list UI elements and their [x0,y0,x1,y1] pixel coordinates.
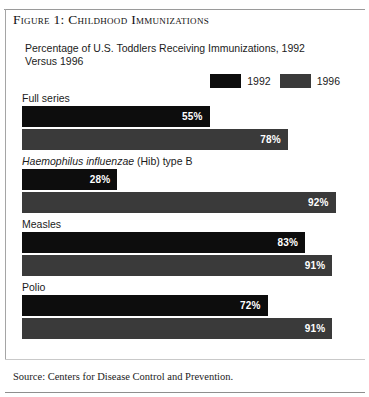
top-rule [4,9,365,10]
bar-row: 91% [22,255,369,276]
source-separator-rule [5,359,365,360]
bar-row: 28% [22,169,369,190]
bar-value-label: 78% [260,135,288,145]
bar-row: 83% [22,232,369,253]
bottom-rule [5,392,365,393]
bar-value-label: 91% [305,261,333,271]
bar-row: 92% [22,192,369,213]
bar-polio-1992: 72% [22,295,268,316]
source-note: Source: Centers for Disease Control and … [13,371,233,382]
bar-polio-1996: 91% [22,318,332,339]
bar-group-polio: Polio 72% 91% [0,281,369,339]
bar-value-label: 91% [305,324,333,334]
bar-value-label: 92% [308,198,336,208]
bar-value-label: 83% [277,238,305,248]
bar-value-label: 28% [90,175,118,185]
bar-full-series-1996: 78% [22,129,288,150]
bar-full-series-1992: 55% [22,106,210,127]
bar-group-full-series: Full series 55% 78% [0,92,369,150]
category-label-hib-scientific: Haemophilus influenzae [22,155,134,167]
bar-row: 91% [22,318,369,339]
legend-label-1996: 1996 [317,76,340,87]
bar-hib-1992: 28% [22,169,117,190]
category-label-hib-rest: (Hib) type B [134,155,192,167]
figure-title: Figure 1: Childhood Immunizations [13,12,209,28]
legend-item-1992: 1992 [210,74,270,88]
bar-value-label: 72% [240,301,268,311]
legend-swatch-1996 [280,74,311,88]
category-label-hib: Haemophilus influenzae (Hib) type B [22,155,369,167]
bar-chart-plot-area: Full series 55% 78% Haemophilus influenz… [0,92,369,344]
legend-label-1992: 1992 [247,76,270,87]
bar-value-label: 55% [182,112,210,122]
category-label-measles: Measles [22,218,369,230]
figure-container: Figure 1: Childhood Immunizations Percen… [0,0,369,397]
bar-measles-1992: 83% [22,232,305,253]
bar-row: 78% [22,129,369,150]
legend-item-1996: 1996 [280,74,340,88]
bar-row: 72% [22,295,369,316]
legend-swatch-1992 [210,74,241,88]
chart-subtitle: Percentage of U.S. Toddlers Receiving Im… [25,42,325,68]
bar-group-measles: Measles 83% 91% [0,218,369,276]
category-label-polio: Polio [22,281,369,293]
bar-row: 55% [22,106,369,127]
bar-group-hib: Haemophilus influenzae (Hib) type B 28% … [0,155,369,213]
bar-measles-1996: 91% [22,255,332,276]
chart-legend: 1992 1996 [210,74,340,88]
bar-hib-1996: 92% [22,192,336,213]
category-label-full-series: Full series [22,92,369,104]
